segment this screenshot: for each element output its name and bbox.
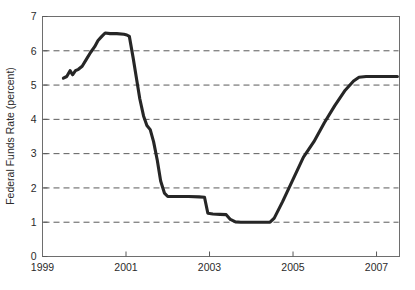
y-tick-label-3: 3: [31, 147, 37, 159]
x-tick-label-2005: 2005: [281, 261, 305, 273]
federal-funds-rate-chart: 01234567 19992001200320052007 Federal Fu…: [0, 0, 415, 290]
y-tick-label-7: 7: [31, 10, 37, 22]
x-tick-label-2001: 2001: [114, 261, 138, 273]
x-tick-label-2003: 2003: [198, 261, 222, 273]
y-tick-label-1: 1: [31, 216, 37, 228]
y-axis-title: Federal Funds Rate (percent): [4, 67, 16, 205]
chart-background: [0, 0, 415, 290]
x-tick-label-1999: 1999: [31, 261, 55, 273]
chart-figure: 01234567 19992001200320052007 Federal Fu…: [0, 0, 415, 290]
y-tick-label-2: 2: [31, 182, 37, 194]
x-tick-label-2007: 2007: [365, 261, 389, 273]
y-tick-label-6: 6: [31, 45, 37, 57]
y-tick-label-5: 5: [31, 79, 37, 91]
y-tick-label-4: 4: [31, 113, 37, 125]
